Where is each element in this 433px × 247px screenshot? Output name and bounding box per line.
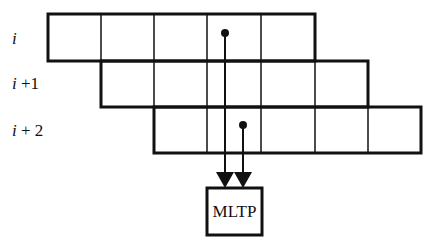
row-i-plus-2-cells xyxy=(154,107,421,153)
row-label-i: i xyxy=(12,29,17,48)
row-label-i-plus-1: i +1 xyxy=(12,74,39,93)
arrowhead-icon xyxy=(234,172,252,188)
sliding-window-diagram: i i +1 i + 2 MLTP xyxy=(0,0,433,247)
row-i-plus-1-cells xyxy=(101,61,368,107)
row-i-cells xyxy=(48,14,315,61)
mltp-label: MLTP xyxy=(213,202,257,221)
mltp-processor-box: MLTP xyxy=(207,188,262,235)
arrowhead-icon xyxy=(216,172,234,188)
row-label-i-plus-2: i + 2 xyxy=(12,121,43,140)
